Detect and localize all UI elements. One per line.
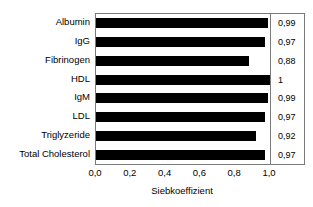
category-label: Albumin bbox=[56, 16, 90, 28]
bar bbox=[96, 131, 256, 141]
bars-area bbox=[96, 14, 270, 164]
bar-row bbox=[96, 33, 270, 52]
category-axis: AlbuminIgGFibrinogenHDLIgMLDLTriglyzerid… bbox=[0, 13, 93, 165]
bar-row bbox=[96, 52, 270, 71]
category-label: LDL bbox=[73, 110, 90, 122]
bar bbox=[96, 75, 270, 85]
x-tick-label: 0,0 bbox=[80, 166, 110, 179]
bar bbox=[96, 150, 265, 160]
bar bbox=[96, 37, 265, 47]
bar bbox=[96, 112, 265, 122]
bar-row bbox=[96, 127, 270, 146]
x-tick-label: 0,2 bbox=[115, 166, 145, 179]
x-axis-ticks: 0,00,20,40,60,81,0 bbox=[95, 166, 305, 180]
category-label: IgG bbox=[75, 35, 90, 47]
bar-value-label: 0,97 bbox=[278, 36, 296, 48]
bar-row bbox=[96, 108, 270, 127]
bar-value-label: 1 bbox=[278, 74, 283, 86]
bar-value-label: 0,99 bbox=[278, 17, 296, 29]
x-tick-label: 0,8 bbox=[219, 166, 249, 179]
category-label: Triglyzeride bbox=[41, 129, 90, 141]
bar-row bbox=[96, 14, 270, 33]
bar bbox=[96, 56, 249, 66]
bar-value-label: 0,97 bbox=[278, 111, 296, 123]
bar bbox=[96, 18, 268, 28]
siebkoeffizient-bar-chart: AlbuminIgGFibrinogenHDLIgMLDLTriglyzerid… bbox=[0, 0, 313, 207]
x-tick-label: 0,4 bbox=[150, 166, 180, 179]
x-axis-title: Siebkoeffizient bbox=[95, 185, 269, 197]
category-label: HDL bbox=[71, 73, 90, 85]
bar-value-label: 0,97 bbox=[278, 149, 296, 161]
category-label: Fibrinogen bbox=[45, 54, 90, 66]
plot-frame: 0,990,970,8810,990,970,920,97 bbox=[95, 13, 305, 165]
bar-row bbox=[96, 89, 270, 108]
category-label: IgM bbox=[74, 91, 90, 103]
x-tick-label: 1,0 bbox=[254, 166, 284, 179]
bar-row bbox=[96, 70, 270, 89]
bar-value-label: 0,99 bbox=[278, 92, 296, 104]
bar-value-label: 0,92 bbox=[278, 130, 296, 142]
bar-value-label: 0,88 bbox=[278, 55, 296, 67]
bar-row bbox=[96, 145, 270, 164]
value-column: 0,990,970,8810,990,970,920,97 bbox=[271, 14, 304, 164]
bar bbox=[96, 93, 268, 103]
x-tick-label: 0,6 bbox=[184, 166, 214, 179]
category-label: Total Cholesterol bbox=[19, 148, 90, 160]
